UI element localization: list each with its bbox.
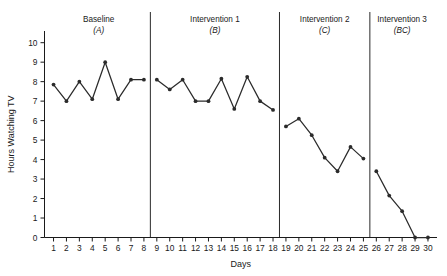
phase-title: Intervention 2 <box>300 15 350 24</box>
y-tick-label: 1 <box>33 213 38 223</box>
series-data-point <box>413 236 417 240</box>
x-tick-label: 5 <box>103 243 108 253</box>
y-tick-label: 7 <box>33 96 38 106</box>
chart-canvas: Baseline(A)Intervention 1(B)Intervention… <box>0 0 447 276</box>
series-data-point <box>271 108 275 112</box>
series-data-point <box>362 157 366 161</box>
series-data-point <box>232 107 236 111</box>
x-tick-label: 19 <box>281 243 291 253</box>
x-tick-label: 12 <box>191 243 201 253</box>
x-tick-label: 2 <box>64 243 69 253</box>
series-segment <box>54 62 144 101</box>
x-tick-label: 27 <box>385 243 395 253</box>
data-series <box>52 60 430 239</box>
series-data-point <box>77 80 81 84</box>
x-tick-label: 30 <box>423 243 433 253</box>
x-tick-label: 26 <box>372 243 382 253</box>
series-data-point <box>168 88 172 92</box>
series-data-point <box>52 83 56 87</box>
phase-subtitle: (C) <box>319 26 331 35</box>
y-tick-label: 10 <box>28 38 38 48</box>
phase-headers: Baseline(A)Intervention 1(B)Intervention… <box>83 15 427 35</box>
x-tick-label: 22 <box>320 243 330 253</box>
series-data-point <box>349 145 353 149</box>
y-axis: 012345678910 <box>28 31 44 243</box>
series-segment <box>376 171 428 237</box>
series-data-point <box>219 77 223 81</box>
x-tick-label: 4 <box>90 243 95 253</box>
y-tick-label: 0 <box>33 233 38 243</box>
series-data-point <box>207 99 211 103</box>
series-data-point <box>336 169 340 173</box>
single-case-design-chart: Baseline(A)Intervention 1(B)Intervention… <box>0 0 447 276</box>
y-tick-label: 3 <box>33 174 38 184</box>
phase-title: Intervention 1 <box>190 15 240 24</box>
y-tick-label: 4 <box>33 155 38 165</box>
x-tick-label: 14 <box>217 243 227 253</box>
series-data-point <box>90 97 94 101</box>
phase-subtitle: (B) <box>209 26 220 35</box>
x-tick-label: 11 <box>178 243 187 253</box>
series-data-point <box>103 60 107 64</box>
y-axis-title: Hours Watching TV <box>6 95 16 173</box>
series-segment <box>157 77 273 110</box>
series-data-point <box>284 125 288 129</box>
x-tick-label: 17 <box>255 243 265 253</box>
x-tick-label: 13 <box>204 243 214 253</box>
x-tick-label: 9 <box>154 243 159 253</box>
x-tick-label: 29 <box>410 243 420 253</box>
series-data-point <box>387 194 391 198</box>
series-data-point <box>129 78 133 82</box>
x-tick-label: 1 <box>51 243 56 253</box>
series-data-point <box>65 99 69 103</box>
y-tick-label: 2 <box>33 194 38 204</box>
x-tick-label: 6 <box>116 243 121 253</box>
series-data-point <box>155 78 159 82</box>
x-tick-label: 23 <box>333 243 343 253</box>
x-tick-label: 16 <box>243 243 253 253</box>
series-data-point <box>310 133 314 137</box>
phase-subtitle: (A) <box>93 26 104 35</box>
y-tick-label: 5 <box>33 135 38 145</box>
x-tick-label: 20 <box>294 243 304 253</box>
x-tick-label: 24 <box>346 243 356 253</box>
y-tick-label: 8 <box>33 77 38 87</box>
phase-title: Intervention 3 <box>377 15 427 24</box>
series-data-point <box>181 78 185 82</box>
x-tick-label: 3 <box>77 243 82 253</box>
x-tick-label: 25 <box>359 243 369 253</box>
y-tick-label: 6 <box>33 116 38 126</box>
series-data-point <box>323 156 327 160</box>
series-data-point <box>116 97 120 101</box>
x-tick-label: 28 <box>397 243 407 253</box>
phase-subtitle: (BC) <box>394 26 411 35</box>
series-data-point <box>194 99 198 103</box>
x-tick-label: 21 <box>307 243 317 253</box>
series-data-point <box>297 117 301 121</box>
x-tick-label: 15 <box>230 243 240 253</box>
series-data-point <box>426 236 430 240</box>
series-data-point <box>258 99 262 103</box>
x-tick-label: 8 <box>142 243 147 253</box>
series-segment <box>286 119 363 172</box>
series-data-point <box>142 78 146 82</box>
phase-dividers <box>150 12 369 238</box>
x-tick-label: 18 <box>268 243 278 253</box>
series-data-point <box>374 169 378 173</box>
x-axis-title: Days <box>230 259 251 269</box>
phase-title: Baseline <box>83 15 115 24</box>
x-tick-label: 7 <box>129 243 134 253</box>
y-tick-label: 9 <box>33 57 38 67</box>
x-axis: 1234567891011121314151617181920212223242… <box>45 238 438 254</box>
series-data-point <box>245 75 249 79</box>
x-tick-label: 10 <box>165 243 175 253</box>
series-data-point <box>400 209 404 213</box>
